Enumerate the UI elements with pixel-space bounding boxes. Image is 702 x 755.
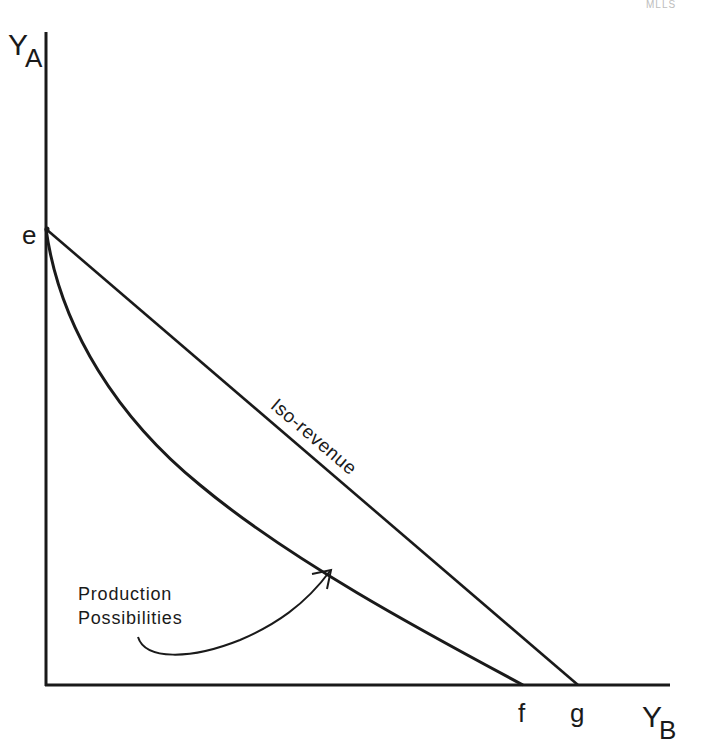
x-axis-label-subscript: B — [659, 715, 676, 745]
corner-mark: MLLS — [646, 0, 676, 10]
point-g-label: g — [570, 700, 584, 726]
y-axis-label-subscript: A — [25, 43, 42, 73]
point-e-label: e — [22, 222, 36, 248]
y-axis-label: YA — [8, 30, 45, 60]
point-e-marker — [45, 227, 50, 232]
x-axis-label: YB — [642, 702, 679, 732]
production-label-line1: Production — [78, 582, 182, 606]
production-label-line2: Possibilities — [78, 606, 182, 630]
production-possibilities-label: Production Possibilities — [78, 582, 182, 630]
diagram-canvas — [0, 0, 702, 755]
point-f-label: f — [518, 700, 525, 726]
